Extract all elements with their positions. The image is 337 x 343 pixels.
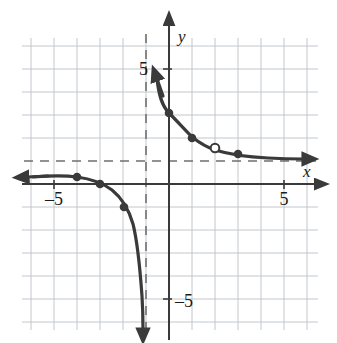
coordinate-plane: y x 5 –5 –5 5 <box>0 0 337 343</box>
filled-point-right-2 <box>188 134 197 143</box>
y-axis-label: y <box>176 27 186 46</box>
graph-figure: y x 5 –5 –5 5 <box>0 0 337 343</box>
filled-point-left-1 <box>73 173 82 182</box>
axis-group <box>22 24 316 340</box>
x-tick-label-neg5: –5 <box>44 189 63 209</box>
filled-point-left-3 <box>120 203 129 212</box>
x-tick-label-5: 5 <box>280 189 289 209</box>
filled-points-group <box>73 109 243 212</box>
filled-point-right-1 <box>165 109 174 118</box>
curve-left-branch-left-arrow <box>27 176 48 177</box>
y-tick-label-5: 5 <box>139 59 148 79</box>
y-tick-label-neg5: –5 <box>174 291 193 311</box>
x-axis-label: x <box>302 162 311 181</box>
curve-right-branch <box>157 79 304 159</box>
filled-point-left-2 <box>96 180 105 189</box>
hole-point <box>211 144 220 153</box>
filled-point-right-3 <box>234 150 243 159</box>
